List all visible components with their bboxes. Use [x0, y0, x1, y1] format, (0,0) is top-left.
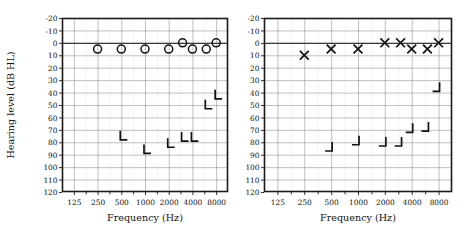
datapoint-air-conduction-right [94, 45, 102, 53]
datapoint-bone-conduction-masked-right [205, 100, 212, 109]
y-tick-label: 50 [48, 101, 58, 110]
datapoint-bone-conduction-masked-right [191, 132, 198, 141]
audiogram-figure: -20-100102030405060708090100110120125250… [0, 0, 476, 237]
x-axis-label: Frequency (Hz) [107, 212, 183, 223]
x-axis-label: Frequency (Hz) [320, 212, 396, 223]
y-tick-label: 0 [53, 39, 58, 48]
series-cross [300, 38, 443, 59]
y-tick-label: 100 [43, 163, 57, 172]
datapoint-air-conduction-left [423, 45, 432, 54]
audiogram-svg: -20-100102030405060708090100110120125250… [0, 0, 476, 237]
datapoint-bone-conduction-masked-left [433, 82, 440, 91]
panel-right-ear: -20-100102030405060708090100110120125250… [5, 14, 228, 223]
y-tick-label: 80 [48, 138, 58, 147]
y-tick-label: 10 [48, 51, 58, 60]
datapoint-bone-conduction-masked-left [325, 142, 332, 151]
datapoint-bone-conduction-masked-right [120, 131, 127, 140]
series-bracket-right [325, 82, 439, 151]
x-tick-label: 500 [115, 198, 129, 207]
datapoint-bone-conduction-masked-right [215, 90, 222, 99]
datapoint-bone-conduction-masked-left [421, 122, 428, 131]
y-tick-label: 70 [250, 126, 260, 135]
x-tick-label: 4000 [184, 198, 203, 207]
x-tick-label: 2000 [376, 198, 395, 207]
y-tick-label: 40 [48, 89, 58, 98]
datapoint-bone-conduction-masked-left [406, 123, 413, 132]
y-tick-label: 80 [250, 138, 260, 147]
y-tick-label: 30 [250, 76, 260, 85]
x-tick-label: 1000 [136, 198, 155, 207]
y-tick-label: 10 [250, 51, 260, 60]
y-tick-label: -10 [46, 27, 58, 36]
datapoint-air-conduction-right [188, 45, 196, 53]
y-tick-label: 120 [245, 188, 259, 197]
datapoint-air-conduction-left [354, 45, 363, 54]
series-bracket-left [120, 90, 222, 154]
y-tick-label: 50 [250, 101, 260, 110]
series-circle [94, 39, 221, 53]
datapoint-bone-conduction-masked-left [395, 137, 402, 146]
datapoint-air-conduction-right [165, 45, 173, 53]
y-tick-label: 60 [48, 114, 58, 123]
x-tick-label: 8000 [207, 198, 226, 207]
datapoint-bone-conduction-masked-left [379, 137, 386, 146]
datapoint-air-conduction-right [141, 45, 149, 53]
y-tick-label: 110 [245, 176, 259, 185]
y-tick-label: 0 [255, 39, 260, 48]
x-tick-label: 125 [67, 198, 81, 207]
datapoint-bone-conduction-masked-right [144, 144, 151, 153]
x-tick-label: 1000 [349, 198, 368, 207]
y-tick-label: 40 [250, 89, 260, 98]
x-tick-label: 8000 [430, 198, 449, 207]
x-tick-label: 250 [91, 198, 105, 207]
x-tick-label: 2000 [160, 198, 179, 207]
y-tick-label: 120 [43, 188, 57, 197]
datapoint-air-conduction-left [327, 45, 336, 54]
y-tick-label: 90 [250, 151, 260, 160]
y-tick-label: 70 [48, 126, 58, 135]
datapoint-air-conduction-left [300, 51, 309, 60]
x-tick-label: 250 [298, 198, 312, 207]
y-tick-label: 20 [250, 64, 260, 73]
y-tick-label: -20 [248, 14, 260, 23]
x-tick-label: 500 [325, 198, 339, 207]
y-tick-label: -20 [46, 14, 58, 23]
x-tick-label: 125 [271, 198, 285, 207]
y-tick-label: 20 [48, 64, 58, 73]
y-axis-label: Hearing level (dB HL) [5, 51, 16, 158]
y-tick-label: 90 [48, 151, 58, 160]
x-tick-label: 4000 [403, 198, 422, 207]
datapoint-air-conduction-right [202, 45, 210, 53]
y-tick-label: 30 [48, 76, 58, 85]
y-tick-label: 110 [43, 176, 57, 185]
panel-left-ear: -20-100102030405060708090100110120125250… [245, 14, 452, 223]
y-tick-label: -10 [248, 27, 260, 36]
datapoint-bone-conduction-masked-right [182, 132, 189, 141]
datapoint-air-conduction-left [407, 45, 416, 54]
y-tick-label: 100 [245, 163, 259, 172]
datapoint-air-conduction-right [117, 45, 125, 53]
y-tick-label: 60 [250, 114, 260, 123]
datapoint-bone-conduction-masked-left [352, 136, 359, 145]
